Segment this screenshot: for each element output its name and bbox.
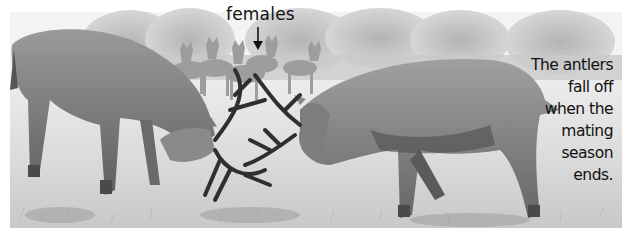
- caption-line: fall off: [503, 76, 613, 98]
- caption-line: The antlers: [503, 54, 613, 76]
- caption-line: ends.: [503, 164, 613, 186]
- arrow-down-icon: [252, 27, 264, 51]
- antler-caption: The antlers fall off when the mating sea…: [503, 54, 613, 186]
- females-label: females: [226, 4, 295, 24]
- caption-line: season: [503, 142, 613, 164]
- caption-line: when the: [503, 98, 613, 120]
- caption-line: mating: [503, 120, 613, 142]
